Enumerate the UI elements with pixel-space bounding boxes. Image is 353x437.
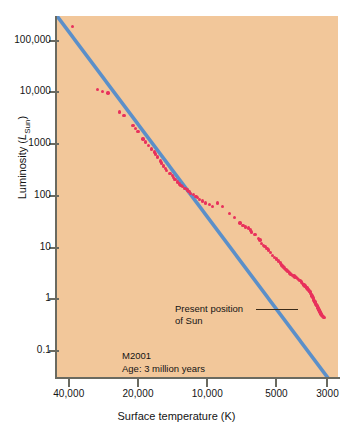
cluster-name: M2001 [122,349,205,362]
scatter-point [156,155,159,158]
y-axis-title-text: Luminosity ( [16,140,28,199]
cluster-age: Age: 3 million years [122,362,205,375]
y-tick-label: 100,000 [14,34,51,45]
x-axis-line [55,377,340,379]
plot-area: Present position of Sun M2001 Age: 3 mil… [57,16,338,378]
x-tick [275,379,277,387]
y-tick-label: 0.1 [37,344,51,355]
x-axis-title: Surface temperature (K) [0,410,353,422]
y-tick-label: 10 [40,241,51,252]
x-tick-label: 10,000 [192,388,223,399]
x-tick-label: 20,000 [122,388,153,399]
x-tick-label: 3000 [316,388,339,399]
scatter-point [96,88,99,91]
hr-diagram-figure: Present position of Sun M2001 Age: 3 mil… [0,0,353,437]
y-axis-title: Luminosity (LSun) [16,88,31,228]
y-axis-title-close: ) [16,116,28,120]
x-tick [206,379,208,387]
cluster-caption: M2001 Age: 3 million years [122,349,205,375]
scatter-point [253,233,256,236]
y-tick-label: 1000 [28,137,51,148]
sun-leader-line [256,309,298,310]
y-axis-line [55,16,57,378]
x-tick [68,379,70,387]
scatter-point [204,201,207,204]
x-tick [137,379,139,387]
y-axis-title-symbol: L [16,134,28,140]
scatter-point [122,114,125,117]
present-position-of-sun-label: Present position of Sun [175,303,243,327]
y-axis-title-subscript: Sun [23,120,32,134]
sun-label-line2: of Sun [175,315,243,327]
sun-label-line1: Present position [175,303,243,315]
scatter-point [136,130,139,133]
x-tick [326,379,328,387]
x-tick-label: 40,000 [53,388,84,399]
y-tick-label: 1 [45,292,51,303]
y-tick-label: 100 [34,189,51,200]
x-tick-label: 5000 [265,388,288,399]
scatter-point [106,91,109,94]
